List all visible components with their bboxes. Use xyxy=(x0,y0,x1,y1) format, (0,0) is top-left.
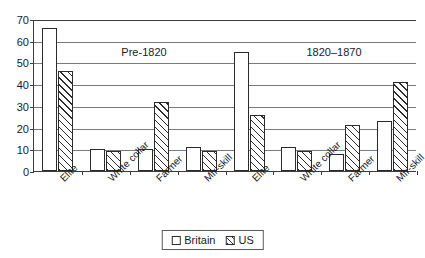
x-tick-3 xyxy=(178,171,179,175)
y-axis-label-0: 0 xyxy=(23,167,29,178)
x-tick-1 xyxy=(82,171,83,175)
x-category-label: White collar xyxy=(298,176,306,184)
y-tick-0 xyxy=(30,172,34,173)
x-tick-7 xyxy=(369,171,370,175)
bar-britain-white-collar-pre1820 xyxy=(90,149,105,171)
period-label-1820-1870: 1820–1870 xyxy=(306,46,361,58)
y-tick-10 xyxy=(30,150,34,151)
y-axis-label-50: 50 xyxy=(17,58,29,69)
x-category-label: Mfr-skill xyxy=(394,176,402,184)
y-tick-40 xyxy=(30,85,34,86)
gridline-40 xyxy=(34,85,416,86)
period-label-pre-1820: Pre-1820 xyxy=(121,46,166,58)
y-axis-label-60: 60 xyxy=(17,36,29,47)
bar-britain-mfr-skill-1820-1870 xyxy=(377,121,392,171)
x-tick-8 xyxy=(417,171,418,175)
x-tick-5 xyxy=(273,171,274,175)
bar-us-mfr-skill-1820-1870 xyxy=(393,82,408,171)
legend-entry-us: US xyxy=(225,234,253,246)
hatched-square-swatch-icon xyxy=(225,236,234,245)
legend-label-us: US xyxy=(238,234,253,246)
y-tick-50 xyxy=(30,63,34,64)
chart-legend: Britain US xyxy=(161,230,263,250)
x-category-label: White collar xyxy=(106,176,114,184)
bar-britain-mfr-skill-pre1820 xyxy=(186,147,201,171)
x-category-label: Elite xyxy=(250,176,258,184)
legend-entry-britain: Britain xyxy=(171,234,215,246)
legend-label-britain: Britain xyxy=(184,234,215,246)
y-tick-70 xyxy=(30,20,34,21)
y-axis-label-30: 30 xyxy=(17,101,29,112)
gridline-70 xyxy=(34,20,416,21)
x-category-label: Farmer xyxy=(346,176,354,184)
gridline-50 xyxy=(34,63,416,64)
bar-britain-white-collar-1820-1870 xyxy=(281,147,296,171)
x-tick-6 xyxy=(321,171,322,175)
y-tick-60 xyxy=(30,42,34,43)
empty-square-swatch-icon xyxy=(171,236,180,245)
x-category-label: Mfr-skill xyxy=(202,176,210,184)
x-tick-2 xyxy=(130,171,131,175)
bar-britain-elite-pre1820 xyxy=(42,28,57,171)
x-category-label: Elite xyxy=(58,176,66,184)
bar-us-farmer-pre1820 xyxy=(154,102,169,171)
bar-chart-figure: 70 60 50 40 30 20 10 0 xyxy=(0,0,425,258)
y-axis-label-40: 40 xyxy=(17,80,29,91)
gridline-60 xyxy=(34,42,416,43)
y-axis-label-20: 20 xyxy=(17,123,29,134)
gridline-30 xyxy=(34,107,416,108)
bar-us-elite-pre1820 xyxy=(58,71,73,171)
bar-britain-elite-1820-1870 xyxy=(234,52,249,171)
x-category-label: Farmer xyxy=(154,176,162,184)
y-axis-label-70: 70 xyxy=(17,15,29,26)
y-tick-30 xyxy=(30,107,34,108)
y-axis-label-10: 10 xyxy=(17,145,29,156)
y-tick-20 xyxy=(30,129,34,130)
x-tick-4 xyxy=(226,171,227,175)
plot-area: 70 60 50 40 30 20 10 0 xyxy=(33,20,416,172)
